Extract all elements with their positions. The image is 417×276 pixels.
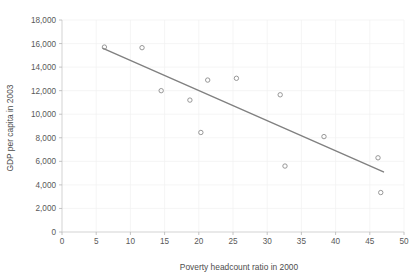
x-tick-label: 5	[94, 237, 99, 246]
y-tick-label: 12,000	[31, 87, 56, 96]
y-tick-label: 8,000	[36, 134, 57, 143]
x-tick-label: 45	[365, 237, 375, 246]
scatter-chart: 05101520253035404550 02,0004,0006,0008,0…	[0, 0, 417, 276]
y-tick-label: 6,000	[36, 157, 57, 166]
x-tick-label: 10	[126, 237, 136, 246]
x-tick-label: 50	[399, 237, 409, 246]
y-tick-label: 18,000	[31, 16, 56, 25]
y-tick-label: 2,000	[36, 204, 57, 213]
x-tick-label: 25	[228, 237, 238, 246]
y-axis-title: GDP per capita in 2003	[5, 84, 15, 171]
y-tick-label: 4,000	[36, 181, 57, 190]
chart-canvas: 05101520253035404550 02,0004,0006,0008,0…	[0, 0, 417, 276]
x-tick-label: 15	[160, 237, 170, 246]
y-tick-label: 14,000	[31, 63, 56, 72]
x-tick-label: 0	[60, 237, 65, 246]
x-tick-label: 20	[194, 237, 204, 246]
y-tick-label: 16,000	[31, 40, 56, 49]
x-tick-label: 30	[263, 237, 273, 246]
y-tick-label: 10,000	[31, 110, 56, 119]
x-tick-label: 40	[331, 237, 341, 246]
y-tick-label: 0	[51, 228, 56, 237]
x-tick-label: 35	[297, 237, 307, 246]
x-axis-title: Poverty headcount ratio in 2000	[180, 262, 299, 272]
